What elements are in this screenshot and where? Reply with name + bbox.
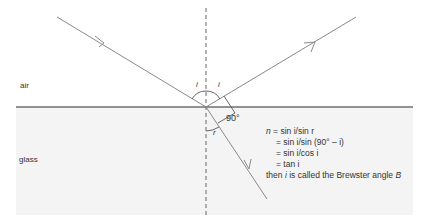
glass-region: [16, 107, 413, 215]
eq-line1-rhs: = sin i/sin r: [271, 126, 314, 136]
incidence-angle-arc: [192, 91, 206, 99]
glass-label: glass: [19, 155, 38, 164]
equation-line-4: = tan i: [276, 159, 299, 170]
eq-line5-mid: is called the Brewster angle: [287, 170, 396, 180]
incident-ray: [57, 17, 206, 107]
equation-line-2: = sin i/sin (90° – i): [276, 137, 344, 148]
brewster-angle-diagram: [0, 0, 426, 222]
equation-line-3: = sin i/cos i: [276, 148, 318, 159]
incidence-angle-label: i: [196, 80, 198, 89]
incident-ray-arrow-icon: [95, 36, 104, 47]
refraction-angle-label: r: [213, 128, 216, 137]
equation-line-5: then i is called the Brewster angle B: [266, 170, 401, 181]
equation-line-1: n = sin i/sin r: [266, 126, 314, 137]
air-label: air: [20, 81, 29, 90]
reflection-angle-arc: [206, 91, 220, 99]
reflection-angle-label: i: [218, 80, 220, 89]
right-angle-label: 90°: [226, 113, 240, 123]
eq-line5-pre: then: [266, 170, 285, 180]
eq-brewster-symbol: B: [395, 170, 401, 180]
reflected-ray: [206, 17, 356, 107]
